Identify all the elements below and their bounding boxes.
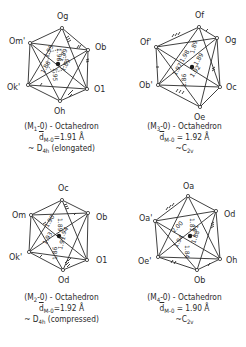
vertex-label: Ok' bbox=[7, 83, 20, 92]
vertex-label: Oc bbox=[58, 184, 69, 193]
caption-m2: (M2-0) - Octahedron dM-0=1.92 Å ~ D4h (c… bbox=[0, 292, 123, 325]
caption-mean-distance: dM-0 = 1.90 Å bbox=[123, 303, 246, 314]
octahedron-m4 bbox=[155, 196, 220, 270]
distance-label: 2.00 bbox=[170, 219, 185, 234]
vertex-label: Om bbox=[12, 211, 26, 220]
vertex-label: Og bbox=[57, 12, 68, 21]
distance-label: 1.84 bbox=[184, 245, 191, 259]
vertex-label: Oa bbox=[183, 182, 194, 191]
distance-label: 1.86 bbox=[180, 73, 187, 87]
caption-title: (M3-0) - Octahedron bbox=[123, 121, 246, 132]
vertex-label: O1 bbox=[94, 85, 105, 94]
distance-label: 1.86 bbox=[51, 246, 58, 260]
vertex-label: Ob bbox=[96, 213, 107, 222]
distance-label: 1.95 bbox=[52, 68, 59, 82]
caption-symmetry: ~ D4h (compressed) bbox=[0, 314, 123, 325]
vertex-label: Od bbox=[224, 210, 235, 219]
octahedron-m3 bbox=[156, 27, 220, 107]
vertex-label: Of bbox=[195, 11, 204, 20]
vertex-label: Od bbox=[58, 276, 69, 285]
vertex-label: Ob' bbox=[139, 81, 153, 90]
caption-mean-distance: dM-0 = 1.92 Å bbox=[123, 132, 246, 143]
vertex-label: Ob bbox=[95, 43, 106, 52]
distance-label: 1.90 bbox=[43, 213, 56, 228]
caption-m4: (M4-0) - Octahedron dM-0 = 1.90 Å ~C2v bbox=[123, 292, 246, 325]
caption-mean-distance: dM-0=1.92 Å bbox=[0, 303, 123, 314]
caption-symmetry: ~ D4h (elongated) bbox=[0, 143, 123, 154]
caption-mean-distance: dM-0=1.91 Å bbox=[0, 132, 123, 143]
vertex-label: O1 bbox=[96, 256, 107, 265]
vertex-label: Oc bbox=[226, 83, 237, 92]
caption-symmetry: ~C2v bbox=[123, 143, 246, 154]
vertex-label: Oh bbox=[54, 107, 65, 116]
distance-label: 1.93 bbox=[41, 230, 54, 245]
vertex-label: Of' bbox=[140, 38, 151, 47]
caption-symmetry: ~C2v bbox=[123, 314, 246, 325]
vertex-label: Oh bbox=[226, 256, 237, 265]
caption-m3: (M3-0) - Octahedron dM-0 = 1.92 Å ~C2v bbox=[123, 121, 246, 154]
vertex-label: Ob bbox=[194, 276, 205, 285]
distance-label: 1.92 bbox=[188, 63, 202, 78]
vertex-label: Oa' bbox=[139, 214, 152, 223]
vertex-label: Og bbox=[225, 36, 236, 45]
caption-title: (M4-0) - Octahedron bbox=[123, 292, 246, 303]
vertex-label: Ok' bbox=[9, 253, 22, 262]
caption-title: (M2-0) - Octahedron bbox=[0, 292, 123, 303]
distance-label: 1.94 bbox=[172, 233, 185, 248]
caption-m1: (M1-0) - Octahedron dM-0=1.91 Å ~ D4h (e… bbox=[0, 121, 123, 154]
vertex-label: Oe' bbox=[138, 257, 151, 266]
caption-title: (M1-0) - Octahedron bbox=[0, 121, 123, 132]
vertex-label: Om' bbox=[9, 37, 25, 46]
